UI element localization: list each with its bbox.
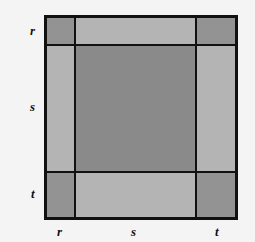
bottom-label-t: t xyxy=(215,225,219,238)
cell-t-s xyxy=(75,172,196,218)
left-label-s: s xyxy=(30,100,35,113)
bottom-label-r: r xyxy=(57,225,62,238)
left-label-t: t xyxy=(31,187,35,200)
cell-s-t xyxy=(196,45,236,172)
bottom-label-s: s xyxy=(131,225,136,238)
cell-r-t xyxy=(196,17,236,45)
cell-t-t xyxy=(196,172,236,218)
cell-r-r xyxy=(46,17,75,45)
cell-r-s xyxy=(75,17,196,45)
cell-t-r xyxy=(46,172,75,218)
cell-s-s xyxy=(75,45,196,172)
partitioned-square xyxy=(44,15,238,220)
cell-s-r xyxy=(46,45,75,172)
left-label-r: r xyxy=(30,24,35,37)
